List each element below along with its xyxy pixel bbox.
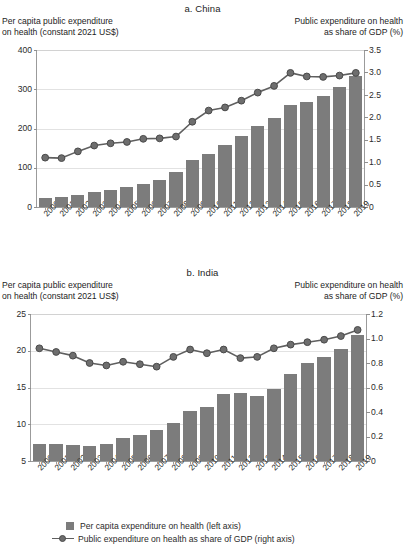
y-axis-label-left: 0 bbox=[27, 203, 32, 212]
y-axis-label-right: 0.2 bbox=[371, 432, 383, 441]
y-axis-label-right: 2.0 bbox=[369, 113, 381, 122]
y-axis-label-left: 200 bbox=[18, 124, 32, 133]
line-marker: 2000: 0.92 bbox=[36, 345, 43, 352]
y-axis-label-right: 0.8 bbox=[371, 359, 383, 368]
panel-b-right-axis-caption: Public expenditure on health as share of… bbox=[295, 280, 403, 301]
y-axis-tick-right bbox=[366, 339, 370, 340]
line-marker: 2018: 2.93 bbox=[336, 72, 343, 79]
y-axis-label-right: 1.5 bbox=[369, 135, 381, 144]
line-marker: 2008: 0.85 bbox=[170, 353, 177, 360]
y-axis-tick-right bbox=[364, 162, 368, 163]
line-marker: 2017: 0.99 bbox=[321, 336, 328, 343]
line-marker: 2019: 2.99 bbox=[352, 69, 359, 76]
panel-a-right-axis-caption: Public expenditure on health as share of… bbox=[295, 16, 403, 37]
legend-bar-label: Per capita expenditure on health (left a… bbox=[80, 521, 241, 531]
y-axis-label-right: 3.5 bbox=[369, 46, 381, 55]
panel-india: b. India Per capita public expenditure o… bbox=[0, 258, 405, 508]
y-axis-label-right: 2.5 bbox=[369, 91, 381, 100]
y-axis-tick-right bbox=[366, 363, 370, 364]
bar-swatch-icon bbox=[66, 522, 74, 530]
y-axis-label-left: 10 bbox=[16, 420, 26, 429]
line-marker: 2010: 0.88 bbox=[203, 350, 210, 357]
line-marker: 2002: 0.86 bbox=[69, 352, 76, 359]
y-axis-tick-right bbox=[364, 72, 368, 73]
panel-a-plot-area: 010020030040000.51.01.52.02.53.03.520002… bbox=[36, 50, 365, 208]
y-axis-tick-left bbox=[28, 461, 32, 462]
line-marker: 2011: 0.91 bbox=[220, 346, 227, 353]
line-marker: 2007: 0.77 bbox=[153, 363, 160, 370]
y-axis-tick-right bbox=[366, 437, 370, 438]
legend-line-label: Public expenditure on health as share of… bbox=[78, 534, 295, 544]
y-axis-label-right: 0.4 bbox=[371, 408, 383, 417]
y-axis-label-left: 100 bbox=[18, 163, 32, 172]
line-marker: 2006: 1.52 bbox=[140, 135, 147, 142]
y-axis-tick-right bbox=[364, 50, 368, 51]
panel-china: a. China Per capita public expenditure o… bbox=[0, 0, 405, 250]
line-marker: 2005: 1.45 bbox=[124, 139, 131, 146]
figure-root: a. China Per capita public expenditure o… bbox=[0, 0, 405, 559]
line-marker: 2012: 0.84 bbox=[237, 355, 244, 362]
line-marker: 2004: 0.78 bbox=[103, 362, 110, 369]
y-axis-label-left: 15 bbox=[16, 383, 26, 392]
line-marker: 2013: 2.55 bbox=[254, 89, 261, 96]
line-marker: 2016: 2.91 bbox=[303, 73, 310, 80]
y-axis-label-left: 400 bbox=[18, 46, 32, 55]
line-marker: 2005: 0.81 bbox=[120, 358, 127, 365]
y-axis-label-right: 0.5 bbox=[369, 180, 381, 189]
line-marker: 2002: 1.24 bbox=[74, 148, 81, 155]
line-marker: 2009: 0.91 bbox=[187, 346, 194, 353]
line-marker: 2014: 0.92 bbox=[270, 345, 277, 352]
y-axis-tick-right bbox=[364, 140, 368, 141]
line-marker: 2017: 2.9 bbox=[320, 74, 327, 81]
line-marker-swatch-icon bbox=[52, 535, 74, 543]
figure-legend: Per capita expenditure on health (left a… bbox=[0, 519, 405, 545]
y-axis-tick-right bbox=[364, 185, 368, 186]
line-marker: 2010: 2.15 bbox=[205, 107, 212, 114]
y-axis-tick-left bbox=[34, 207, 38, 208]
y-axis-label-left: 25 bbox=[16, 310, 26, 319]
legend-entry-line: Public expenditure on health as share of… bbox=[0, 532, 405, 545]
line-series: 2000: 1.12001: 1.092002: 1.242003: 1.372… bbox=[37, 50, 364, 207]
line-marker: 2004: 1.42 bbox=[107, 140, 114, 147]
panel-b-left-axis-caption: Per capita public expenditure on health … bbox=[2, 280, 119, 301]
y-axis-tick-right bbox=[366, 314, 370, 315]
line-marker: 2008: 1.57 bbox=[173, 133, 180, 140]
y-axis-label-right: 1.0 bbox=[371, 334, 383, 343]
line-marker: 2013: 0.85 bbox=[254, 353, 261, 360]
y-axis-label-right: 1.0 bbox=[369, 158, 381, 167]
line-marker: 2003: 1.37 bbox=[91, 142, 98, 149]
panel-b-plot-area: 51015202500.20.40.60.81.01.2200020012002… bbox=[30, 314, 367, 462]
y-axis-label-right: 1.2 bbox=[371, 310, 383, 319]
y-axis-tick-right bbox=[364, 117, 368, 118]
line-marker: 2001: 0.89 bbox=[53, 349, 60, 356]
line-marker: 2003: 0.8 bbox=[86, 360, 93, 367]
line-marker: 2018: 1.02 bbox=[337, 333, 344, 340]
line-marker: 2007: 1.53 bbox=[156, 135, 163, 142]
line-marker: 2012: 2.37 bbox=[238, 97, 245, 104]
y-axis-tick-right bbox=[366, 388, 370, 389]
line-marker: 2000: 1.1 bbox=[42, 154, 49, 161]
panel-b-title: b. India bbox=[0, 267, 405, 278]
line-marker: 2001: 1.09 bbox=[58, 155, 65, 162]
line-marker: 2015: 0.95 bbox=[287, 341, 294, 348]
y-axis-label-left: 20 bbox=[16, 346, 26, 355]
y-axis-label-right: 3.0 bbox=[369, 68, 381, 77]
line-marker: 2009: 1.9 bbox=[189, 118, 196, 125]
y-axis-tick-right bbox=[366, 412, 370, 413]
legend-entry-bars: Per capita expenditure on health (left a… bbox=[0, 519, 405, 532]
line-marker: 2016: 0.97 bbox=[304, 339, 311, 346]
line-marker: 2015: 2.99 bbox=[287, 69, 294, 76]
y-axis-tick-right bbox=[364, 95, 368, 96]
line-marker: 2011: 2.22 bbox=[222, 104, 229, 111]
y-axis-label-right: 0.6 bbox=[371, 383, 383, 392]
panel-a-title: a. China bbox=[0, 3, 405, 14]
line-marker: 2014: 2.7 bbox=[271, 82, 278, 89]
line-marker: 2019: 1.07 bbox=[354, 327, 361, 334]
line-marker: 2006: 0.79 bbox=[136, 361, 143, 368]
panel-a-left-axis-caption: Per capita public expenditure on health … bbox=[2, 16, 119, 37]
y-axis-label-left: 5 bbox=[21, 457, 26, 466]
line-series: 2000: 0.922001: 0.892002: 0.862003: 0.82… bbox=[31, 314, 366, 461]
y-axis-label-left: 300 bbox=[18, 85, 32, 94]
